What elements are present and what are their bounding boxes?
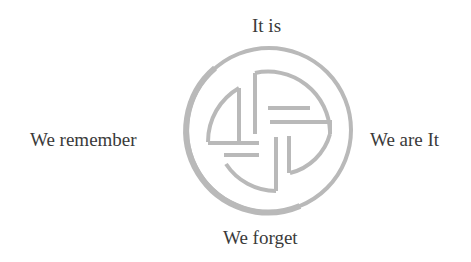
arc-bottom-left [226,164,276,191]
arc-bottom-right [290,134,330,173]
label-top: It is [252,16,281,35]
arc-left [208,88,239,142]
label-right: We are It [370,130,439,149]
label-bottom: We forget [223,228,298,247]
label-left: We remember [30,130,137,149]
outer-ring-thick-side [186,68,300,212]
